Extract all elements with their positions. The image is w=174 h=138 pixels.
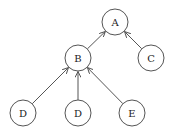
node-label: D [19,108,27,119]
edge-b-to-a [87,31,105,49]
node-label: C [147,53,155,64]
node-d2: D [65,100,91,126]
node-a: A [102,9,128,35]
node-label: A [110,17,119,28]
node-d1: D [10,100,36,126]
node-b: B [65,45,91,71]
node-e: E [119,100,145,126]
node-label: B [74,53,81,64]
node-label: D [74,108,82,119]
node-label: E [128,108,135,119]
node-c: C [138,45,164,71]
edge-d1-to-b [32,68,68,104]
edge-e-to-b [87,68,122,104]
edge-c-to-a [125,32,142,49]
nodes: ABCDDE [10,9,164,126]
tree-diagram: ABCDDE [0,0,174,138]
